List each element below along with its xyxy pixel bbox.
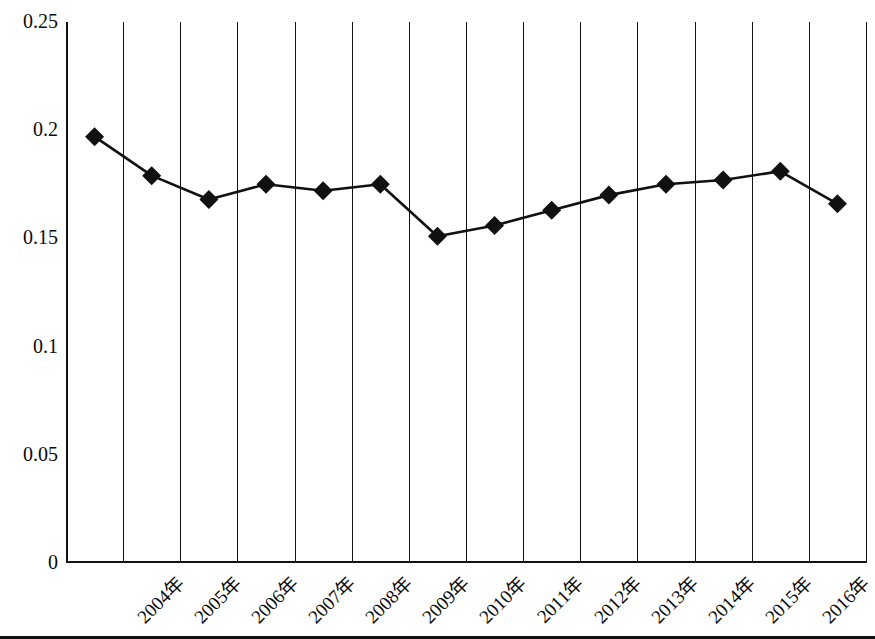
x-tick-label: 2008年 xyxy=(362,573,416,627)
x-axis-tick-labels: 2004年2005年2006年2007年2008年2009年2010年2011年… xyxy=(0,0,875,639)
x-tick-label: 2009年 xyxy=(419,573,473,627)
x-tick-label: 2014年 xyxy=(705,573,759,627)
x-tick-label: 2004年 xyxy=(133,573,187,627)
x-tick-label: 2013年 xyxy=(648,573,702,627)
x-tick-label: 2005年 xyxy=(190,573,244,627)
x-tick-label: 2010年 xyxy=(476,573,530,627)
x-tick-label: 2007年 xyxy=(305,573,359,627)
x-tick-label: 2012年 xyxy=(590,573,644,627)
x-tick-label: 2006年 xyxy=(248,573,302,627)
x-tick-label: 2015年 xyxy=(762,573,816,627)
x-tick-label: 2016年 xyxy=(819,573,873,627)
x-tick-label: 2011年 xyxy=(533,573,586,626)
chart-figure: 0.250.20.150.10.050 2004年2005年2006年2007年… xyxy=(0,0,875,639)
